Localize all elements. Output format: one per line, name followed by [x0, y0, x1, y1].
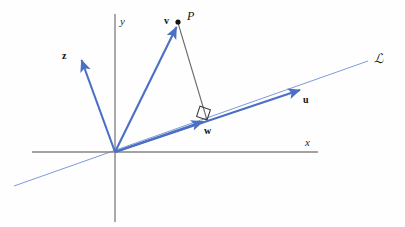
vector-z	[82, 60, 116, 152]
figure-canvas	[0, 0, 405, 227]
point-p-marker	[175, 19, 180, 24]
vector-v-label: v	[164, 16, 169, 26]
point-p-label: P	[187, 10, 194, 22]
vector-z-label: z	[62, 51, 66, 61]
vector-projection-figure: y x ℒ v z u w P	[0, 0, 405, 227]
vector-w-label: w	[204, 126, 211, 136]
line-L	[14, 61, 368, 186]
x-axis-label: x	[305, 137, 310, 148]
line-l-label: ℒ	[374, 52, 383, 65]
vector-u-label: u	[303, 95, 309, 105]
perpendicular-segment	[178, 23, 207, 120]
y-axis-label: y	[120, 16, 125, 27]
